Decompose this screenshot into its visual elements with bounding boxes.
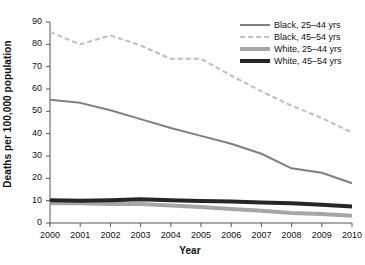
legend-item: Black, 45–54 yrs <box>240 31 364 42</box>
y-tick-label: 60 <box>20 83 42 93</box>
y-axis-title: Deaths per 100,000 population <box>2 14 16 214</box>
y-tick-label: 80 <box>20 38 42 48</box>
x-tick-label: 2008 <box>277 230 307 240</box>
x-tick-label: 2006 <box>216 230 246 240</box>
x-tick-label: 2010 <box>337 230 365 240</box>
legend-label: White, 45–54 yrs <box>274 56 342 66</box>
y-tick-marks <box>46 22 50 223</box>
x-tick-label: 2007 <box>246 230 276 240</box>
y-tick-label: 40 <box>20 128 42 138</box>
series-line <box>50 100 352 184</box>
legend-swatch-icon <box>240 32 270 42</box>
legend-label: White, 25–44 yrs <box>274 44 342 54</box>
x-tick-marks <box>50 223 352 227</box>
legend-item: White, 45–54 yrs <box>240 55 364 66</box>
x-tick-label: 2005 <box>186 230 216 240</box>
legend-swatch-icon <box>240 44 270 54</box>
y-tick-label: 50 <box>20 105 42 115</box>
x-axis-title: Year <box>40 245 340 256</box>
y-tick-label: 90 <box>20 16 42 26</box>
legend-item: White, 25–44 yrs <box>240 43 364 54</box>
legend-label: Black, 25–44 yrs <box>274 20 341 30</box>
x-tick-label: 2004 <box>156 230 186 240</box>
chart-legend: Black, 25–44 yrsBlack, 45–54 yrsWhite, 2… <box>240 19 364 67</box>
legend-item: Black, 25–44 yrs <box>240 19 364 30</box>
y-tick-label: 0 <box>20 217 42 227</box>
line-chart: 0102030405060708090 20002001200220032004… <box>0 0 365 265</box>
x-tick-label: 2001 <box>65 230 95 240</box>
legend-swatch-icon <box>240 20 270 30</box>
y-tick-label: 30 <box>20 150 42 160</box>
x-tick-label: 2000 <box>35 230 65 240</box>
x-tick-label: 2003 <box>126 230 156 240</box>
x-tick-label: 2002 <box>95 230 125 240</box>
y-tick-label: 70 <box>20 61 42 71</box>
y-tick-label: 10 <box>20 195 42 205</box>
legend-swatch-icon <box>240 56 270 66</box>
x-tick-label: 2009 <box>307 230 337 240</box>
legend-label: Black, 45–54 yrs <box>274 32 341 42</box>
y-tick-label: 20 <box>20 172 42 182</box>
